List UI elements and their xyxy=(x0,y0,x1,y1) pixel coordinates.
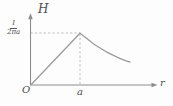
physics-figure-magnetic-field: H r O a I 2πa xyxy=(0,0,173,106)
x-axis-arrow-icon xyxy=(152,83,158,88)
x-axis-label: r xyxy=(160,78,165,88)
curve-hyperbolic-segment xyxy=(80,33,130,62)
curve-linear-segment xyxy=(31,33,80,85)
y-axis-label: H xyxy=(38,3,48,15)
x-tick-label-a: a xyxy=(77,87,83,97)
y-tick-label-peak-value: I 2πa xyxy=(7,20,20,37)
origin-label: O xyxy=(22,85,30,95)
y-axis-arrow-icon xyxy=(28,13,33,19)
peak-value-denominator: 2πa xyxy=(7,29,20,37)
